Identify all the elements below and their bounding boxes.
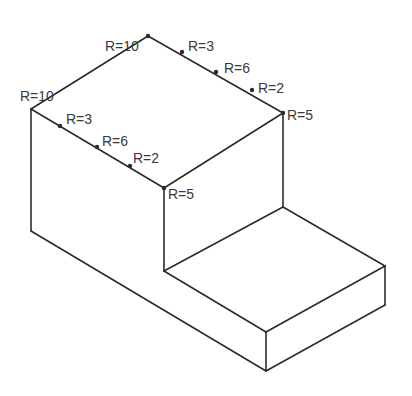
top-face-lower-right-edge xyxy=(164,113,283,188)
tick-lower-left-r6 xyxy=(95,145,99,149)
callout-lower-left-r3: R=3 xyxy=(66,111,92,127)
tick-lower-left-r2 xyxy=(128,164,132,168)
callout-upper-right-r2: R=2 xyxy=(258,80,284,96)
tick-upper-right-r2 xyxy=(250,88,254,92)
notch-floor-left-edge xyxy=(164,207,283,271)
slab-front-top-edge xyxy=(164,271,266,332)
top-face-upper-right-edge xyxy=(148,36,283,113)
callout-upper-right-r6: R=6 xyxy=(224,60,250,76)
tick-upper-right-r3 xyxy=(180,50,184,54)
tick-lower-left-r3 xyxy=(58,124,62,128)
callout-lower-left-r2: R=2 xyxy=(133,150,159,166)
callout-notch-r5: R=5 xyxy=(168,186,194,202)
callout-top-apex-r10: R=10 xyxy=(105,38,139,54)
slab-bottom-right-edge xyxy=(266,305,385,371)
callout-upper-right-r3: R=3 xyxy=(188,38,214,54)
edges-group xyxy=(31,36,385,371)
isometric-drawing-canvas: R=10R=3R=6R=2R=10R=5R=3R=6R=2R=5 xyxy=(0,0,412,396)
callout-top-left-r10: R=10 xyxy=(20,88,54,104)
tick-notch-corner xyxy=(162,186,166,190)
notch-floor-right-edge xyxy=(283,207,385,266)
tick-top-right-corner xyxy=(281,111,285,115)
slab-top-right-edge xyxy=(266,266,385,332)
callout-lower-left-r6: R=6 xyxy=(102,133,128,149)
tick-upper-right-r6 xyxy=(214,70,218,74)
radius-callouts-group: R=10R=3R=6R=2R=10R=5R=3R=6R=2R=5 xyxy=(20,38,313,202)
body-front-bottom-edge xyxy=(31,231,266,371)
tick-top-apex xyxy=(146,34,150,38)
isometric-block-figure: R=10R=3R=6R=2R=10R=5R=3R=6R=2R=5 xyxy=(0,0,412,396)
callout-top-right-r5: R=5 xyxy=(287,107,313,123)
